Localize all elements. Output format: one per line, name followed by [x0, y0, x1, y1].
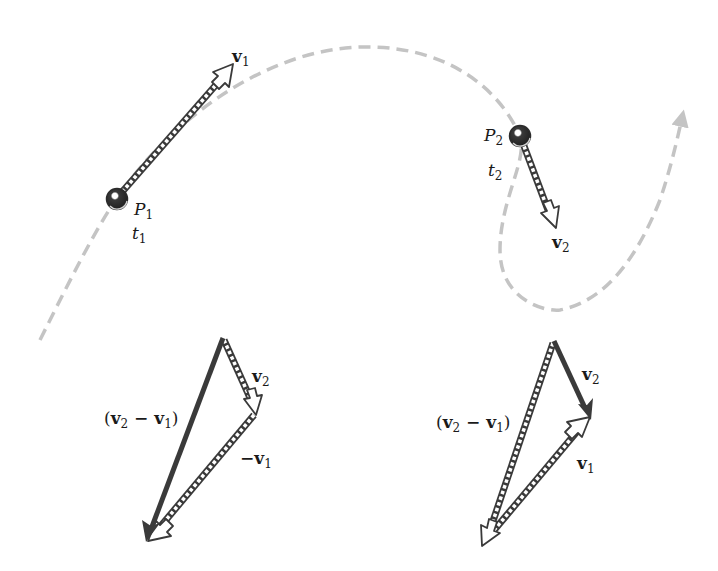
right-label-diff: (v2 − v1)	[436, 414, 510, 434]
label-p2: P2	[484, 127, 503, 147]
left-label-neg-v1: −v1	[240, 450, 272, 470]
label-v2-top: v2	[552, 234, 570, 254]
left-label-v2: v2	[252, 368, 270, 388]
ball-p2-icon	[510, 126, 531, 147]
diagram-canvas	[0, 0, 718, 571]
right-label-v1: v1	[577, 455, 595, 475]
ball-p1-icon	[107, 189, 128, 210]
label-v1-top: v1	[232, 48, 250, 68]
left-vector-triangle	[142, 338, 262, 542]
right-vector-triangle	[481, 341, 593, 546]
vector-v2-at-p2	[524, 146, 559, 228]
label-t2: t2	[488, 162, 502, 182]
label-t1: t1	[132, 225, 146, 245]
label-p1: P1	[134, 201, 153, 221]
right-label-v2: v2	[582, 366, 600, 386]
left-label-diff: (v2 − v1)	[104, 410, 178, 430]
vector-v1-at-p1	[122, 64, 233, 192]
trajectory-path	[40, 47, 682, 340]
